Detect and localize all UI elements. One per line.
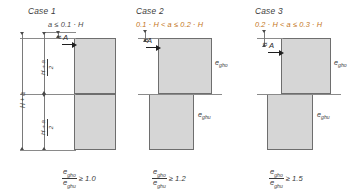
case-2-result: egho eghu ≥ 1.2 xyxy=(152,168,186,189)
case-2-load-arrow-head xyxy=(156,45,161,51)
case-1-dimcap-offset-top xyxy=(56,31,60,34)
case-1-offset-label: a xyxy=(55,35,62,39)
case-1-result: egho eghu ≥ 1.0 xyxy=(62,168,96,189)
case-1-title: Case 1 xyxy=(28,6,56,16)
case-1-dimcap-lower-bottom xyxy=(42,147,46,150)
three-case-diagram: Case 1 a ≤ 0.1 · H H + a H + a 2 xyxy=(0,0,361,196)
case-1-result-denominator: eghu xyxy=(62,179,77,189)
case-2-upper-eccentricity-label: egho xyxy=(215,58,228,68)
case-1-extension-mid xyxy=(20,94,76,95)
case-3-load-arrow-head xyxy=(279,50,284,56)
case-2-upper-block xyxy=(158,38,212,94)
case-1-dimcap-outer-top xyxy=(20,32,24,35)
case-1-upper-block xyxy=(74,38,116,94)
case-1-condition: a ≤ 0.1 · H xyxy=(48,20,84,29)
case-1-extension-offset xyxy=(44,32,76,33)
case-2-arrow-label: A xyxy=(147,36,152,45)
case-3-extension-mid xyxy=(257,94,341,95)
case-2-result-rhs: ≥ 1.2 xyxy=(169,174,186,183)
case-1-dimcap-lower-top xyxy=(42,94,46,97)
case-1-result-rhs: ≥ 1.0 xyxy=(79,174,96,183)
case-1-load-arrow-head xyxy=(72,42,77,48)
case-1-lower-block xyxy=(74,94,116,150)
case-2-lower-eccentricity-label: eghu xyxy=(198,110,211,120)
case-2-condition: 0.1 · H < a ≤ 0.2 · H xyxy=(136,20,203,29)
case-1-dim-lower-label: H + a 2 xyxy=(40,119,54,136)
case-3-dimcap-offset-top xyxy=(262,30,266,33)
case-3-lower-block xyxy=(267,94,313,150)
case-1-dimcap-upper-top xyxy=(42,32,46,35)
case-3-result: egho eghu ≥ 1.5 xyxy=(269,168,303,189)
case-1-dim-upper-label: H + a 2 xyxy=(40,59,54,76)
case-3-extension-top xyxy=(257,38,283,39)
case-3-offset-label: a xyxy=(261,42,268,46)
case-2-lower-block xyxy=(149,94,194,150)
case-1-dimline-outer xyxy=(22,32,23,150)
case-3-result-denominator: eghu xyxy=(269,179,284,189)
case-2-panel: Case 2 0.1 · H < a ≤ 0.2 · H a A egho eg… xyxy=(130,0,243,196)
case-1-dimcap-outer-bottom xyxy=(20,147,24,150)
case-3-upper-eccentricity-label: egho xyxy=(334,58,347,68)
case-2-result-denominator: eghu xyxy=(152,179,167,189)
case-2-title: Case 2 xyxy=(136,6,164,16)
case-3-title: Case 3 xyxy=(255,6,283,16)
case-3-upper-block xyxy=(281,38,331,94)
case-3-panel: Case 3 0.2 · H < a ≤ 0.3 · H a A egho eg… xyxy=(243,0,361,196)
case-1-dim-outer-label: H + a xyxy=(19,92,26,108)
case-3-lower-eccentricity-label: eghu xyxy=(317,110,330,120)
case-1-arrow-label: A xyxy=(63,33,68,42)
case-2-extension-mid xyxy=(138,94,222,95)
case-3-arrow-label: A xyxy=(269,41,274,50)
case-3-condition: 0.2 · H < a ≤ 0.3 · H xyxy=(255,20,322,29)
case-1-dim-upper-den: 2 xyxy=(48,59,55,76)
case-1-extension-bottom xyxy=(20,150,76,151)
case-1-panel: Case 1 a ≤ 0.1 · H H + a H + a 2 xyxy=(0,0,130,196)
case-2-dimcap-offset-top xyxy=(143,30,147,33)
case-3-result-rhs: ≥ 1.5 xyxy=(286,174,303,183)
case-1-dim-lower-den: 2 xyxy=(48,119,55,136)
